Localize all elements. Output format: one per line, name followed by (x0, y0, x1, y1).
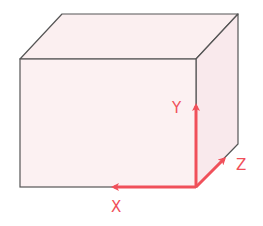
x-axis-label: X (111, 198, 121, 216)
cuboid-diagram: Y X Z (0, 0, 263, 226)
box-front-face (20, 59, 196, 187)
z-axis-label: Z (236, 156, 246, 174)
y-axis-label: Y (171, 99, 182, 117)
